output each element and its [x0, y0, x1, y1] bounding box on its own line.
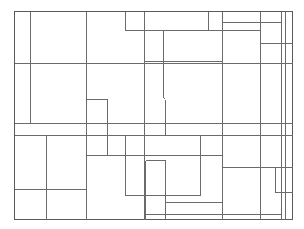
partition-diagram: [0, 0, 304, 229]
partition-line: [164, 98, 166, 100]
outer-frame: [15, 12, 293, 220]
partition-lines: [15, 12, 293, 220]
diagram-svg: [0, 0, 304, 229]
